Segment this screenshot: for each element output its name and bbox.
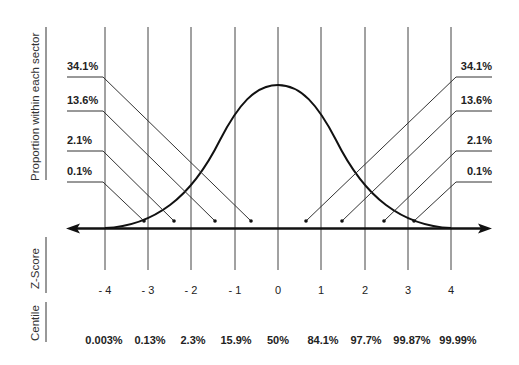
centile-axis-title: Centile bbox=[29, 305, 41, 341]
centile-labels: 0.003% 0.13% 2.3% 15.9% 50% 84.1% 97.7% … bbox=[85, 334, 477, 346]
left-leader-dots bbox=[142, 219, 253, 223]
centile-label: 84.1% bbox=[307, 334, 338, 346]
centile-label: 97.7% bbox=[350, 334, 381, 346]
left-label-34-1: 34.1% bbox=[67, 60, 98, 72]
left-label-0-1: 0.1% bbox=[67, 165, 92, 177]
zscore-label: - 2 bbox=[185, 284, 198, 296]
centile-label: 15.9% bbox=[220, 334, 251, 346]
right-label-34-1: 34.1% bbox=[461, 60, 492, 72]
left-label-2-1: 2.1% bbox=[67, 134, 92, 146]
proportion-axis-title: Proportion within each sector bbox=[29, 33, 41, 181]
left-label-13-6: 13.6% bbox=[67, 94, 98, 106]
zscore-label: - 3 bbox=[142, 284, 155, 296]
zscore-axis-title: Z-Score bbox=[29, 248, 41, 289]
sd-gridlines bbox=[105, 27, 451, 270]
centile-label: 99.99% bbox=[439, 334, 477, 346]
zscore-label: 0 bbox=[275, 284, 281, 296]
zscore-label: 3 bbox=[405, 284, 411, 296]
right-label-2-1: 2.1% bbox=[467, 134, 492, 146]
zscore-label: 1 bbox=[318, 284, 324, 296]
centile-label: 99.87% bbox=[393, 334, 431, 346]
zscore-label: - 4 bbox=[99, 284, 112, 296]
centile-label: 2.3% bbox=[180, 334, 205, 346]
right-label-13-6: 13.6% bbox=[461, 94, 492, 106]
centile-label: 50% bbox=[267, 334, 289, 346]
normal-distribution-diagram: Proportion within each sector Z-Score Ce… bbox=[0, 0, 519, 365]
zscore-label: - 1 bbox=[229, 284, 242, 296]
zscore-labels: - 4 - 3 - 2 - 1 0 1 2 3 4 bbox=[99, 284, 454, 296]
zscore-label: 2 bbox=[362, 284, 368, 296]
centile-label: 0.003% bbox=[85, 334, 123, 346]
zscore-label: 4 bbox=[448, 284, 454, 296]
centile-label: 0.13% bbox=[134, 334, 165, 346]
right-label-0-1: 0.1% bbox=[467, 165, 492, 177]
